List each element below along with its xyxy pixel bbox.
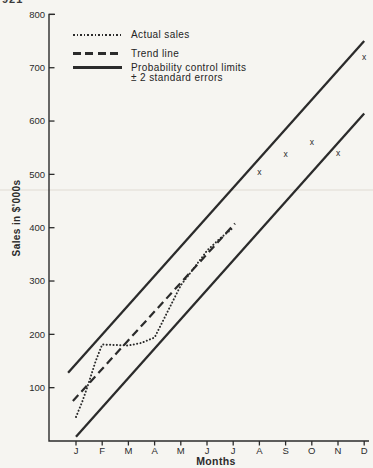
y-tick-label: 200 xyxy=(29,329,45,340)
y-tick-label: 500 xyxy=(29,169,45,180)
legend-dashed-line-sample xyxy=(73,52,122,55)
scanned-chart-page: 921 800700600500400300200100JFMAMJJASOND… xyxy=(0,0,373,468)
series-lower-probability-control-limit-2-se xyxy=(76,114,364,437)
x-tick-label: S xyxy=(282,445,288,456)
series-actual-sales-x-marks-aug-dec-point: x xyxy=(257,167,262,177)
x-tick-label: J xyxy=(231,445,236,456)
x-tick-label: J xyxy=(74,445,79,456)
legend-label-control-limits: Probability control limits xyxy=(131,63,246,73)
y-tick-label: 600 xyxy=(29,115,45,126)
series-trend-line xyxy=(73,223,235,401)
x-tick-label: D xyxy=(361,445,368,456)
legend-label-trend-line: Trend line xyxy=(131,49,179,59)
series-actual-sales-x-marks-aug-dec-point: x xyxy=(283,149,288,159)
y-tick-label: 400 xyxy=(29,222,45,233)
x-tick-label: N xyxy=(335,445,342,456)
y-tick-label: 300 xyxy=(29,275,45,286)
legend-label-actual-sales: Actual sales xyxy=(131,30,190,40)
x-tick-label: F xyxy=(99,445,105,456)
y-tick-label: 100 xyxy=(29,382,45,393)
series-actual-sales xyxy=(76,228,233,417)
x-tick-label: M xyxy=(124,445,132,456)
legend-label-control-limits-line2: ± 2 standard errors xyxy=(131,73,223,83)
x-tick-label: A xyxy=(256,445,263,456)
y-axis-title: Sales in $'000s xyxy=(11,173,23,263)
x-tick-label: O xyxy=(308,445,315,456)
x-tick-label: J xyxy=(205,445,210,456)
x-axis-title: Months xyxy=(166,455,266,467)
series-actual-sales-x-marks-aug-dec-point: x xyxy=(310,137,315,147)
series-actual-sales-x-marks-aug-dec-point: x xyxy=(336,148,341,158)
x-tick-label: A xyxy=(151,445,158,456)
legend-solid-line-sample xyxy=(73,66,122,69)
x-tick-label: M xyxy=(177,445,185,456)
legend-dotted-line-sample xyxy=(73,34,122,36)
chart-legend: Actual sales Trend line Probability cont… xyxy=(0,0,373,100)
